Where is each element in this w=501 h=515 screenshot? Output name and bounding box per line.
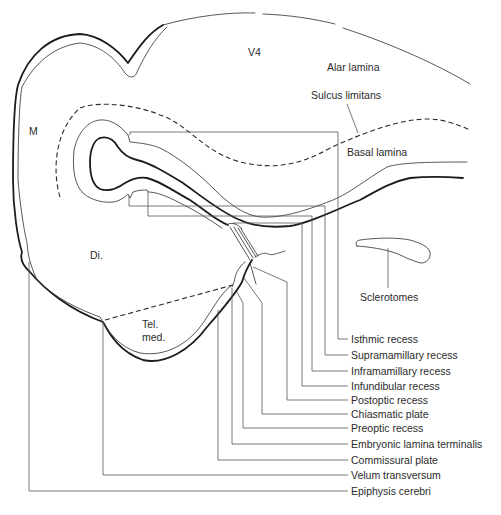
- leader-commissural-plate: [218, 310, 348, 460]
- label-med: med.: [142, 331, 165, 343]
- dorsal-roof-line: [163, 13, 255, 25]
- label-sclerotomes: Sclerotomes: [360, 291, 418, 303]
- label-preoptic-recess: Preoptic recess: [351, 422, 423, 434]
- label-alar-lamina: Alar lamina: [327, 61, 380, 73]
- label-chiasmatic-plate: Chiasmatic plate: [351, 408, 429, 420]
- label-basal-lamina: Basal lamina: [347, 146, 407, 158]
- leader-velum-transversum: [103, 322, 348, 475]
- label-epiphysis-cerebri: Epiphysis cerebri: [351, 485, 431, 497]
- label-isthmic-recess: Isthmic recess: [351, 333, 418, 345]
- leader-chiasmatic-plate: [244, 278, 348, 414]
- ventricle-lumen-lower: [90, 138, 228, 225]
- label-velum-transversum: Velum transversum: [351, 469, 441, 481]
- telencephalon-medium-boundary: [105, 285, 233, 320]
- brain-midsagittal-diagram: V4 M Alar lamina Sulcus limitans Basal l…: [0, 0, 501, 515]
- label-sulcus-limitans: Sulcus limitans: [311, 89, 381, 101]
- label-embryonic-lamina-terminalis: Embryonic lamina terminalis: [351, 438, 482, 450]
- label-tel: Tel.: [142, 318, 158, 330]
- leader-preoptic-recess: [237, 292, 348, 428]
- dorsal-roof-line-2: [263, 14, 335, 24]
- ventricle-lumen-upper: [100, 137, 463, 226]
- leader-embryonic-lamina-terminalis: [232, 288, 348, 444]
- sulcus-limitans-dashed-line: [56, 104, 470, 197]
- leader-epiphysis-cerebri: [29, 262, 348, 491]
- sclerotome-shape: [356, 238, 430, 263]
- inner-brain-wall: [18, 27, 232, 354]
- dorsal-roof-line-3: [343, 28, 470, 84]
- leader-lines: [29, 132, 348, 491]
- label-supramamillary-recess: Supramamillary recess: [351, 349, 458, 361]
- leader-postoptic-recess: [253, 267, 348, 400]
- label-commissural-plate: Commissural plate: [351, 454, 438, 466]
- basal-lamina-thin-line: [128, 135, 467, 217]
- label-infundibular-recess: Infundibular recess: [351, 380, 440, 392]
- label-mesencephalon: M: [29, 125, 38, 137]
- label-postoptic-recess: Postoptic recess: [351, 394, 428, 406]
- label-diencephalon: Di.: [90, 249, 103, 261]
- leader-inframamillary-recess: [148, 192, 348, 371]
- sulcus-limitans-leader-line: [347, 104, 358, 133]
- label-inframamillary-recess: Inframamillary recess: [351, 365, 451, 377]
- label-v4: V4: [248, 46, 261, 58]
